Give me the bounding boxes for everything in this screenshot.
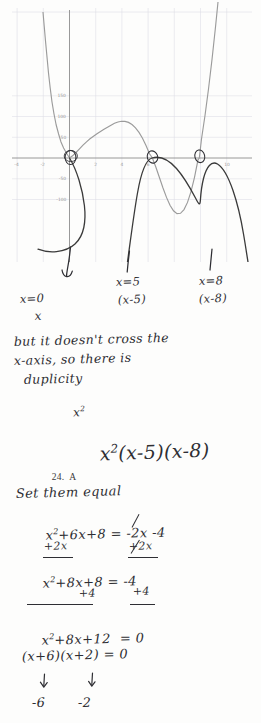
x-tick-label: -4 (14, 162, 19, 167)
hand-drawn-right-curve (128, 157, 249, 262)
operation-add-2x-left: +2x (44, 540, 68, 552)
duplicity-note-line-1: but it doesn't cross the (14, 331, 170, 348)
hand-drawn-left-curve (38, 158, 85, 252)
item-number: 24. (52, 472, 65, 482)
x-tick-label: 4 (121, 162, 124, 167)
y-tick-label: 50 (61, 135, 67, 140)
x-tick-label: -2 (41, 162, 46, 167)
grid-vertical (17, 8, 227, 262)
y-tick-label: 100 (58, 114, 67, 119)
final-expression-base: x (99, 442, 111, 464)
solution-arrow-right (85, 672, 101, 692)
step-3-equals: = (103, 573, 124, 589)
final-factored-expression: x2(x-5)(x-8) (73, 419, 211, 485)
grid-horizontal (12, 12, 252, 200)
underline-add-4-right (130, 604, 155, 605)
worksheet-page: -4 -2 2 4 6 10 150 100 50 -50 -100 (0, 0, 261, 723)
squared-factor-exponent: 2 (80, 404, 85, 413)
underline-add-2x-right (128, 557, 158, 558)
duplicity-note-line-2: x-axis, so there is (14, 351, 132, 367)
item-choice: A (69, 472, 76, 482)
operation-add-4-right: +4 (133, 585, 150, 597)
root-label-five: x=5 (116, 275, 141, 288)
x-tick-label: 10 (224, 162, 230, 167)
pointer-arrow-root-0 (52, 246, 92, 286)
factor-label-x-minus-5: (x-5) (117, 293, 146, 307)
step-5-left-rest: +8x+12 (54, 631, 111, 647)
y-tick-label: -100 (56, 197, 66, 202)
operation-add-4-left: +4 (79, 587, 96, 599)
duplicity-note-line-3: duplicity (24, 371, 83, 386)
y-tick-label: -50 (59, 176, 66, 181)
step-5-right: 0 (135, 630, 144, 645)
root-label-zero: x=0 (19, 292, 44, 305)
solution-arrow-left (37, 673, 53, 693)
function-graph: -4 -2 2 4 6 10 150 100 50 -50 -100 (0, 0, 261, 262)
final-expression-rest: (x-5)(x-8) (118, 439, 210, 464)
pointer-line-root-5 (120, 250, 138, 276)
step-1-equals: = (106, 525, 127, 541)
solution-value-right: -2 (78, 696, 92, 710)
graph-panel: -4 -2 2 4 6 10 150 100 50 -50 -100 (0, 0, 261, 262)
underline-add-2x-left (43, 557, 73, 558)
equation-step-6-factored: (x+6)(x+2) = 0 (22, 647, 129, 663)
pointer-line-root-8 (203, 248, 221, 274)
factor-label-x-minus-8: (x-8) (198, 292, 227, 306)
root-label-eight: x=8 (199, 274, 224, 287)
x-tick-label: 2 (94, 162, 97, 167)
instruction-set-them-equal: Set them equal (16, 484, 122, 500)
y-tick-label: 150 (58, 93, 67, 98)
factor-label-x: x (34, 310, 42, 323)
underline-add-4-left (27, 604, 93, 605)
step-5-equals: = (111, 630, 136, 646)
solution-value-left: -6 (32, 696, 46, 710)
